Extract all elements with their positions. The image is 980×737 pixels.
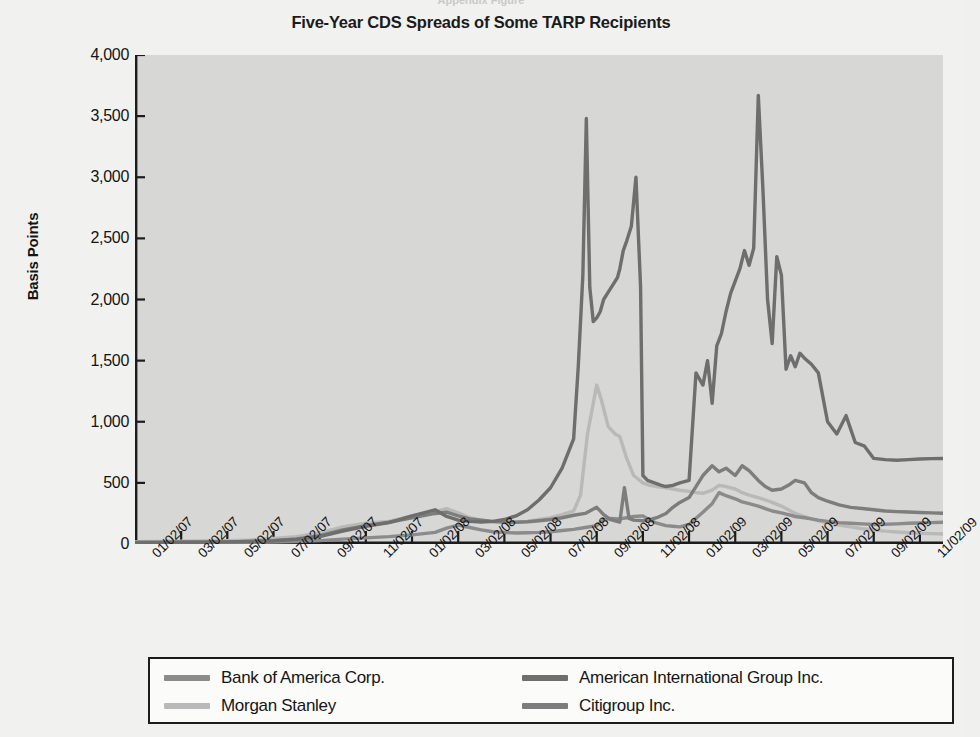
y-tick-label: 1,000 <box>9 413 129 431</box>
chart-title: Five-Year CDS Spreads of Some TARP Recip… <box>0 13 962 32</box>
y-tick-label: 500 <box>9 474 129 492</box>
legend-label: Bank of America Corp. <box>221 668 385 688</box>
y-axis-tick-labels: 05001,0001,5002,0002,5003,0003,5004,000 <box>5 55 129 544</box>
clipped-header-text: Appendix Figure <box>0 0 962 6</box>
y-tick-label: 3,500 <box>9 107 129 125</box>
legend-swatch-icon <box>164 703 210 709</box>
legend-swatch-icon <box>164 675 210 681</box>
y-tick-label: 3,000 <box>9 168 129 186</box>
y-tick-label: 2,500 <box>9 229 129 247</box>
y-tick-label: 2,000 <box>9 291 129 309</box>
legend-label: Morgan Stanley <box>221 696 336 716</box>
legend-item[interactable]: Citigroup Inc. <box>522 694 675 718</box>
x-axis-tick-labels: 01/02/0703/02/0705/02/0707/02/0709/02/07… <box>135 544 955 639</box>
legend-label: Citigroup Inc. <box>579 696 675 716</box>
plot-area <box>135 55 943 544</box>
legend-item[interactable]: American International Group Inc. <box>522 666 823 690</box>
legend-label: American International Group Inc. <box>579 668 823 688</box>
legend-swatch-icon <box>522 675 568 681</box>
legend-item[interactable]: Bank of America Corp. <box>164 666 385 690</box>
chart-lines <box>135 55 943 544</box>
axis-lines <box>136 55 943 543</box>
series-line <box>135 95 943 542</box>
series-line <box>135 385 943 542</box>
y-tick-label: 4,000 <box>9 46 129 64</box>
chart-legend: Bank of America Corp.Morgan StanleyAmeri… <box>148 657 954 724</box>
legend-swatch-icon <box>522 703 568 709</box>
legend-item[interactable]: Morgan Stanley <box>164 694 336 718</box>
y-tick-label: 0 <box>9 535 129 553</box>
y-tick-label: 1,500 <box>9 352 129 370</box>
